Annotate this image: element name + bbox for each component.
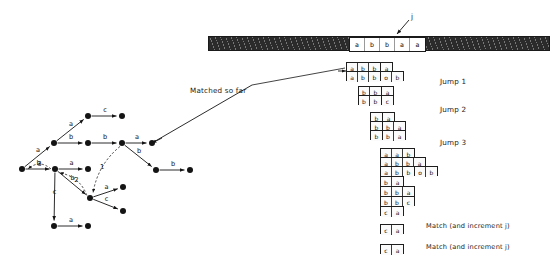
pointer-arrow-j bbox=[397, 20, 409, 34]
trie-edge bbox=[58, 171, 86, 194]
trie-edge bbox=[54, 172, 55, 220]
trie-edge bbox=[93, 199, 118, 209]
figure-canvas: abbaa j Matched so far Jump 1 Jump 2 Jum… bbox=[0, 0, 558, 273]
trie-edge bbox=[57, 119, 84, 140]
trie-edge-group bbox=[25, 116, 185, 226]
trie-edge bbox=[125, 145, 152, 166]
trie-failure-link bbox=[28, 164, 51, 169]
trie-edge bbox=[93, 189, 117, 197]
trie-to-annotation-arrow bbox=[152, 138, 162, 143]
trie-failure-link bbox=[93, 146, 120, 192]
trie-to-annotation-line bbox=[152, 85, 252, 143]
trie-edge bbox=[25, 146, 50, 166]
vector-layer bbox=[0, 0, 558, 273]
matched-so-far-leader bbox=[252, 68, 345, 85]
